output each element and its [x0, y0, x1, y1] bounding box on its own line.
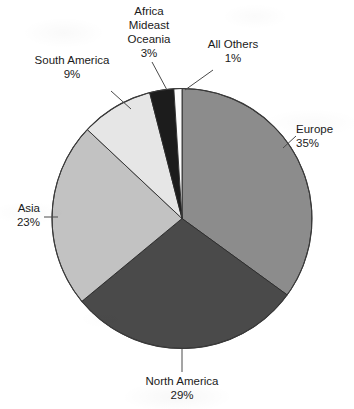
pie-slice-group — [52, 89, 312, 349]
slice-label-south-america-name: South America — [35, 54, 110, 66]
slice-label-africa-line2: Mideast — [129, 19, 170, 31]
slice-label-africa-mideast-oceania: Africa Mideast Oceania 3% — [128, 5, 171, 59]
slice-label-north-america-name: North America — [146, 375, 219, 387]
slice-label-north-america-value: 29% — [170, 389, 193, 401]
slice-label-all-others: All Others 1% — [208, 38, 259, 64]
slice-label-north-america: North America 29% — [146, 375, 219, 401]
slice-label-asia: Asia 23% — [17, 202, 41, 228]
slice-label-europe-name: Europe — [296, 123, 333, 135]
leader-line-africa-mideast-oceania — [152, 62, 167, 90]
slice-label-asia-name: Asia — [18, 202, 41, 214]
slice-label-all-others-value: 1% — [225, 52, 242, 64]
slice-label-europe-value: 35% — [296, 137, 319, 149]
slice-label-south-america-value: 9% — [64, 68, 81, 80]
slice-label-africa-value: 3% — [141, 47, 158, 59]
slice-label-south-america: South America 9% — [35, 54, 110, 80]
slice-label-asia-value: 23% — [17, 216, 40, 228]
leader-line-all-others — [185, 70, 213, 90]
slice-label-all-others-name: All Others — [208, 38, 259, 50]
pie-chart-figure: Europe 35% North America 29% Asia 23% So… — [0, 0, 354, 409]
slice-label-africa-line3: Oceania — [128, 33, 171, 45]
slice-label-europe: Europe 35% — [296, 123, 333, 149]
slice-label-africa-line1: Africa — [134, 5, 164, 17]
pie-chart-svg: Europe 35% North America 29% Asia 23% So… — [0, 0, 354, 409]
